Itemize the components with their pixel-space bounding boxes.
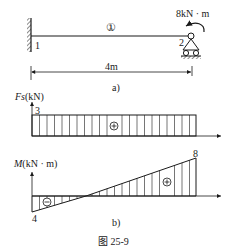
- fixed-wall-support: [27, 18, 31, 52]
- node-1-label: 1: [35, 41, 40, 51]
- roller-support: [181, 33, 201, 59]
- shear-axis-symbol: Fs: [15, 91, 25, 102]
- shear-axis-label: Fs(kN): [15, 92, 44, 102]
- panel-a-label: a): [112, 83, 120, 93]
- figure-caption: 图 25-9: [98, 237, 129, 247]
- moment-right-value: 8: [193, 149, 198, 159]
- moment-left-value: 4: [32, 214, 37, 224]
- node-2-label: 2: [179, 38, 184, 48]
- shear-diagram: [32, 102, 221, 136]
- shear-axis-unit: (kN): [25, 91, 44, 102]
- moment-axis-unit: (kN · m): [22, 158, 57, 169]
- moment-diagram: [32, 158, 221, 212]
- panel-b-label: b): [112, 218, 120, 228]
- length-label: 4m: [105, 62, 118, 72]
- element-label: ①: [106, 22, 116, 33]
- shear-value-label: 3: [35, 106, 40, 116]
- moment-load-label: 8kN · m: [176, 9, 209, 19]
- moment-arrow-icon: [186, 23, 204, 32]
- moment-axis-label: M(kN · m): [14, 159, 57, 169]
